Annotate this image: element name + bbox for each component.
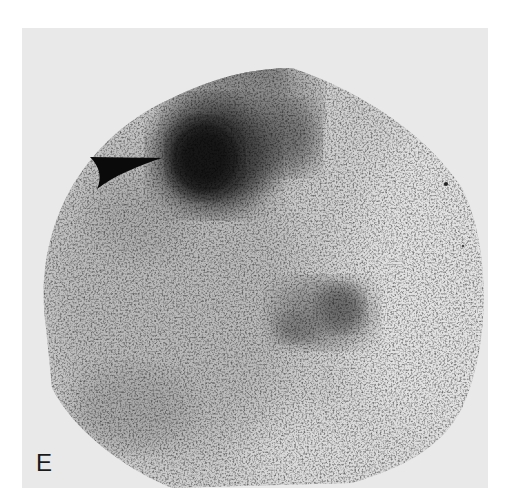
scintigram-image	[22, 28, 488, 488]
image-panel: E	[22, 28, 488, 488]
field-of-view	[22, 28, 488, 488]
scintigraphy-figure: E	[0, 0, 507, 503]
artifact-dot	[444, 182, 448, 186]
artifact-dot	[462, 245, 465, 248]
panel-label: E	[36, 451, 52, 475]
